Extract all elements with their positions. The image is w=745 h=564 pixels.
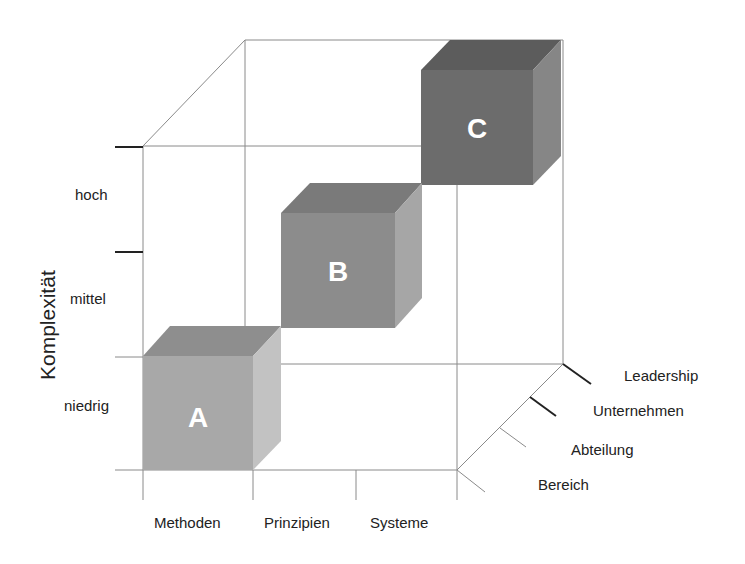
x-label-prinzipien: Prinzipien <box>264 514 330 531</box>
diagram-canvas <box>0 0 745 564</box>
z-label-bereich: Bereich <box>538 476 589 493</box>
cube-a-label: A <box>178 402 218 434</box>
y-label-niedrig: niedrig <box>64 397 109 414</box>
cube-b-label: B <box>318 256 358 288</box>
z-label-leadership: Leadership <box>624 367 698 384</box>
cube-c-label: C <box>457 113 497 145</box>
z-label-unternehmen: Unternehmen <box>593 402 684 419</box>
y-label-hoch: hoch <box>75 186 108 203</box>
z-label-abteilung: Abteilung <box>571 441 634 458</box>
y-axis-title: Komplexität <box>36 270 60 380</box>
x-label-methoden: Methoden <box>154 514 221 531</box>
x-label-systeme: Systeme <box>370 514 428 531</box>
cube-a <box>143 326 281 470</box>
y-label-mittel: mittel <box>70 290 106 307</box>
